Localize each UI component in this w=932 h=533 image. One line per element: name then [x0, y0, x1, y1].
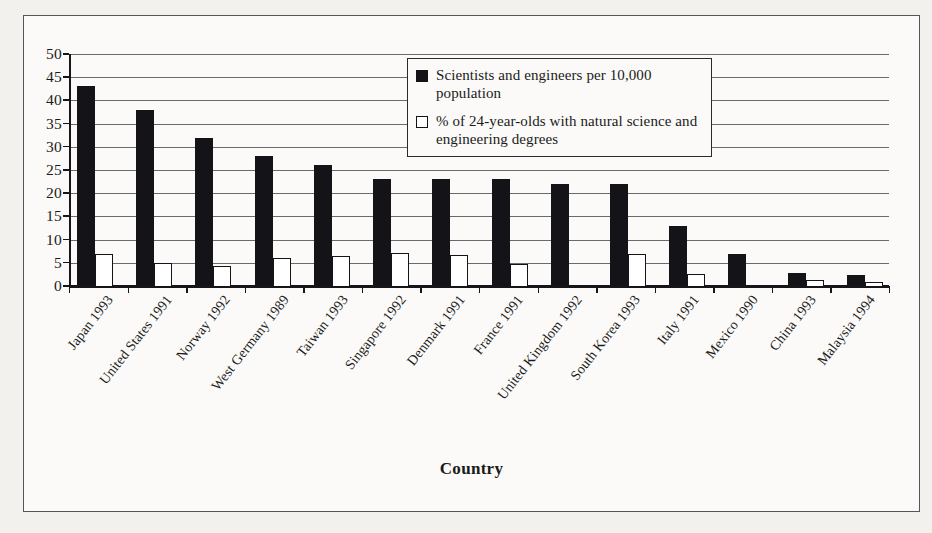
chart-legend: Scientists and engineers per 10,000 popu… [407, 58, 712, 157]
legend-label: % of 24-year-olds with natural science a… [436, 112, 703, 149]
bar [610, 184, 628, 286]
x-axis-tick-mark [889, 286, 890, 293]
bar [373, 179, 391, 286]
bar [154, 263, 172, 286]
bar [492, 179, 510, 286]
bar-group [77, 54, 113, 286]
x-axis-category-label: France 1991 [472, 293, 527, 357]
x-axis-category-label: Denmark 1991 [405, 293, 468, 368]
bar-group [255, 54, 291, 286]
y-axis-tick-label: 50 [46, 46, 62, 62]
y-axis-tick-label: 40 [46, 93, 62, 109]
figure-frame: 50454035302520151050 Japan 1993United St… [23, 15, 920, 512]
bar-group [373, 54, 409, 286]
y-axis-tick-label: 20 [46, 185, 62, 201]
bar [687, 274, 705, 286]
x-axis-category-label: Taiwan 1993 [294, 293, 350, 360]
bar [195, 138, 213, 286]
bar [136, 110, 154, 286]
x-axis-tick-mark [538, 286, 539, 293]
x-axis-category-label: Malaysia 1994 [815, 293, 878, 368]
bar-group [136, 54, 172, 286]
x-axis-category-label: Mexico 1990 [703, 293, 760, 361]
bar-group [788, 54, 824, 286]
outlined-square-icon [416, 116, 428, 128]
legend-label: Scientists and engineers per 10,000 popu… [436, 66, 703, 103]
bar [314, 165, 332, 286]
y-axis-tick-label: 35 [46, 116, 62, 132]
bar [551, 184, 569, 286]
x-axis-tick-mark [713, 286, 714, 293]
x-axis-tick-mark [69, 286, 70, 293]
bar [391, 253, 409, 286]
x-axis-tick-mark [772, 286, 773, 293]
y-axis-tick-label: 5 [54, 255, 62, 271]
x-axis-tick-mark [245, 286, 246, 293]
x-axis-tick-marks [69, 286, 889, 293]
bar [255, 156, 273, 286]
bar-group [195, 54, 231, 286]
y-axis-tick-label: 15 [46, 209, 62, 225]
filled-square-icon [416, 70, 428, 82]
y-axis-tick-label: 10 [46, 232, 62, 248]
x-axis-tick-mark [362, 286, 363, 293]
y-axis-tick-label: 0 [54, 278, 62, 294]
bar [847, 275, 865, 286]
y-axis-tick-label: 30 [46, 139, 62, 155]
bar [95, 254, 113, 286]
bar [628, 254, 646, 286]
bar-group [314, 54, 350, 286]
x-axis-category-label: Norway 1992 [175, 293, 234, 363]
bar [77, 86, 95, 286]
bar [728, 254, 746, 286]
y-axis-tick-label: 45 [46, 69, 62, 85]
x-axis-category-labels: Japan 1993United States 1991Norway 1992W… [69, 293, 889, 413]
bar [332, 256, 350, 286]
x-axis-tick-mark [128, 286, 129, 293]
bar [510, 264, 528, 286]
x-axis-tick-mark [596, 286, 597, 293]
x-axis-category-label: Japan 1993 [66, 293, 117, 352]
x-axis-tick-mark [479, 286, 480, 293]
x-axis-category-label: China 1993 [768, 293, 820, 354]
legend-entry-scientists-engineers: Scientists and engineers per 10,000 popu… [416, 66, 703, 103]
y-axis-tick-label: 25 [46, 162, 62, 178]
bar [432, 179, 450, 286]
x-axis-tick-mark [186, 286, 187, 293]
x-axis-tick-mark [830, 286, 831, 293]
bar [213, 266, 231, 286]
x-axis-tick-mark [303, 286, 304, 293]
x-axis-tick-mark [420, 286, 421, 293]
bar [669, 226, 687, 286]
x-axis-category-label: Singapore 1992 [343, 293, 409, 372]
bar [450, 255, 468, 286]
x-axis-category-label: Italy 1991 [655, 293, 702, 347]
x-axis-tick-mark [655, 286, 656, 293]
bar-group [847, 54, 883, 286]
bar-group [728, 54, 764, 286]
bar [788, 273, 806, 286]
bar [273, 258, 291, 286]
x-axis-title: Country [24, 459, 919, 479]
legend-entry-degrees-percentage: % of 24-year-olds with natural science a… [416, 112, 703, 149]
